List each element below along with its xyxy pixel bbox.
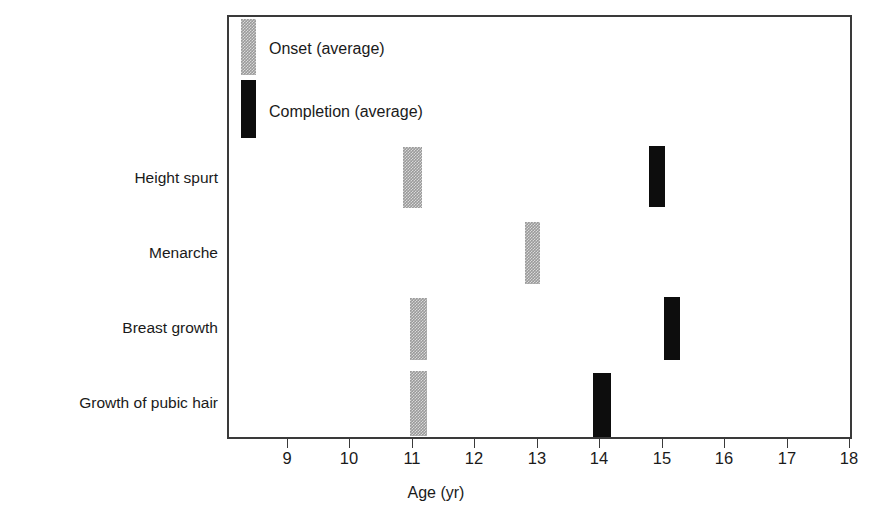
- x-tick-label-17: 17: [767, 450, 807, 467]
- legend-label-onset: Onset (average): [269, 41, 385, 57]
- category-label-breast-growth: Breast growth: [122, 320, 218, 336]
- bar-onset-growth-of-pubic-hair: [410, 371, 427, 436]
- x-tick-label-13: 13: [517, 450, 557, 467]
- bar-completion-breast-growth: [664, 297, 680, 360]
- x-tick-label-9: 9: [267, 450, 307, 467]
- x-tick-17: [787, 439, 788, 448]
- bar-onset-height-spurt: [403, 147, 422, 208]
- x-tick-label-10: 10: [329, 450, 369, 467]
- x-tick-label-16: 16: [704, 450, 744, 467]
- x-tick-label-15: 15: [642, 450, 682, 467]
- x-tick-label-18: 18: [829, 450, 869, 467]
- x-tick-9: [287, 439, 288, 448]
- bar-completion-height-spurt: [649, 146, 665, 207]
- legend-label-completion: Completion (average): [269, 104, 423, 120]
- bar-onset-menarche: [525, 222, 540, 284]
- plot-area: Onset (average) Completion (average): [227, 15, 852, 439]
- category-label-height-spurt: Height spurt: [134, 170, 218, 186]
- x-tick-14: [599, 439, 600, 448]
- category-label-menarche: Menarche: [149, 245, 218, 261]
- bar-onset-breast-growth: [410, 298, 427, 360]
- x-tick-16: [724, 439, 725, 448]
- x-tick-13: [537, 439, 538, 448]
- x-tick-11: [412, 439, 413, 448]
- x-tick-12: [474, 439, 475, 448]
- onset-swatch: [241, 19, 256, 75]
- x-tick-10: [349, 439, 350, 448]
- x-tick-label-12: 12: [454, 450, 494, 467]
- x-tick-label-11: 11: [392, 450, 432, 467]
- bar-completion-growth-of-pubic-hair: [593, 373, 611, 437]
- x-axis-title: Age (yr): [0, 484, 872, 502]
- x-tick-18: [849, 439, 850, 448]
- x-tick-label-14: 14: [579, 450, 619, 467]
- x-tick-15: [662, 439, 663, 448]
- puberty-timeline-chart: Height spurt Menarche Breast growth Grow…: [0, 0, 872, 522]
- category-axis-labels: Height spurt Menarche Breast growth Grow…: [0, 0, 218, 522]
- category-label-growth-of-pubic-hair: Growth of pubic hair: [79, 395, 218, 411]
- completion-swatch: [241, 80, 256, 138]
